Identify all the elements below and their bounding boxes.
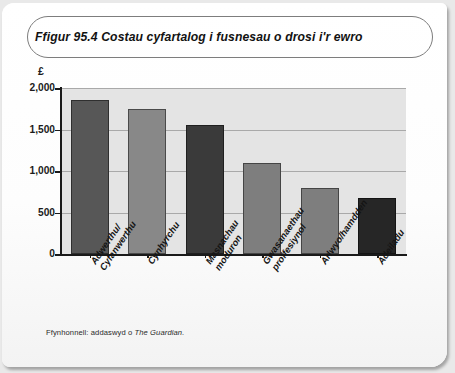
source-note: Ffynhonnell: addaswyd o The Guardian. xyxy=(46,328,184,337)
bar xyxy=(71,100,109,254)
y-axis-tick-label: 1,000 xyxy=(15,165,55,176)
source-publication: The Guardian. xyxy=(135,328,185,337)
y-axis-tick xyxy=(55,130,61,132)
paper-sheet: Ffigur 95.4 Costau cyfartalog i fusnesau… xyxy=(2,3,447,367)
y-axis-tick-label: 500 xyxy=(15,207,55,218)
bar-chart: £ 2,0001,5001,0005000Adwerthu/ Cyfanwert… xyxy=(27,65,433,345)
y-axis-tick xyxy=(55,88,61,90)
source-prefix: Ffynhonnell: addaswyd o xyxy=(46,328,135,337)
bar xyxy=(186,125,224,254)
bar xyxy=(128,109,166,254)
y-axis-tick xyxy=(55,171,61,173)
y-axis-currency-label: £ xyxy=(38,65,44,77)
scan-page-backdrop: Ffigur 95.4 Costau cyfartalog i fusnesau… xyxy=(0,0,455,373)
figure-title: Ffigur 95.4 Costau cyfartalog i fusnesau… xyxy=(35,30,363,44)
y-axis-tick-label: 0 xyxy=(15,248,55,259)
y-axis-tick xyxy=(55,254,61,256)
gridline xyxy=(61,88,406,89)
gridline xyxy=(61,171,406,172)
y-axis-tick-label: 2,000 xyxy=(15,82,55,93)
gridline xyxy=(61,130,406,131)
y-axis-tick xyxy=(55,213,61,215)
y-axis-tick-label: 1,500 xyxy=(15,124,55,135)
